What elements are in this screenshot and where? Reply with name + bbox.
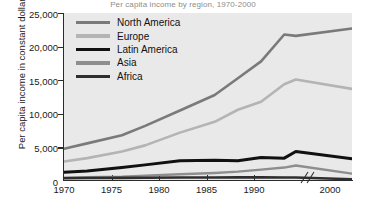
series-line-asia: [64, 166, 352, 178]
legend-swatch: [76, 34, 110, 37]
legend-label: Africa: [117, 71, 143, 82]
x-tick-label: 1975: [90, 184, 134, 195]
legend-label: North America: [117, 17, 180, 28]
x-tick-label: 1985: [185, 184, 229, 195]
y-tick-label: 15,000: [0, 76, 58, 87]
legend-item-africa[interactable]: Africa: [76, 70, 201, 83]
series-line-europe: [64, 80, 352, 162]
chart-container: Per capita income by region, 1970-2000 P…: [0, 0, 366, 209]
legend-item-asia[interactable]: Asia: [76, 56, 201, 69]
x-tick-label: 1980: [137, 184, 181, 195]
legend-label: Latin America: [117, 44, 178, 55]
chart-legend: North America Europe Latin America Asia …: [76, 16, 201, 83]
y-tick-label: 5,000: [0, 143, 58, 154]
y-tick-label: 20,000: [0, 42, 58, 53]
legend-swatch: [76, 61, 110, 64]
y-tick-label: 25,000: [0, 9, 58, 20]
legend-swatch: [76, 75, 110, 78]
legend-swatch: [76, 21, 110, 24]
series-line-africa: [64, 177, 352, 179]
legend-item-north-america[interactable]: North America: [76, 16, 201, 29]
legend-label: Asia: [117, 57, 136, 68]
legend-label: Europe: [117, 31, 149, 42]
y-tick-label: 10,000: [0, 109, 58, 120]
x-tick-label: 1990: [232, 184, 276, 195]
legend-swatch: [76, 48, 110, 51]
x-tick-label: 1970: [42, 184, 86, 195]
legend-item-europe[interactable]: Europe: [76, 29, 201, 42]
legend-item-latin-america[interactable]: Latin America: [76, 43, 201, 56]
